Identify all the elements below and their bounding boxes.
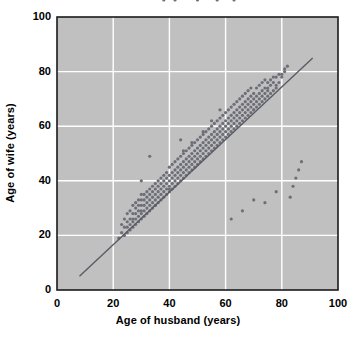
scatter-chart-figure: Age of wife (years) Age of husband (year… <box>0 0 356 338</box>
plot-canvas <box>0 0 356 338</box>
